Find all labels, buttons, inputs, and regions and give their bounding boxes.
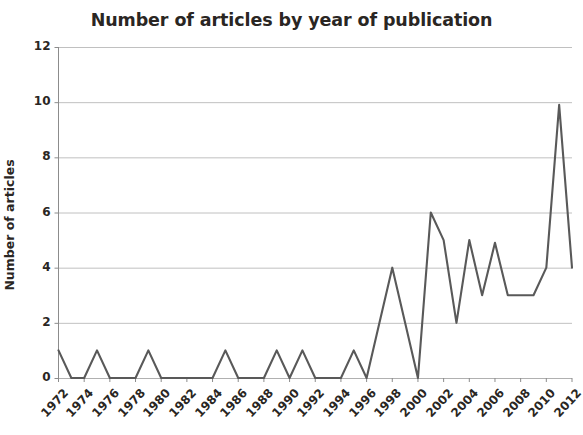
- y-axis-ticks: [55, 48, 59, 379]
- chart-container: Number of articles by year of publicatio…: [0, 0, 583, 435]
- plot-area: [0, 0, 583, 435]
- gridlines: [59, 48, 573, 379]
- data-series-line: [59, 105, 573, 378]
